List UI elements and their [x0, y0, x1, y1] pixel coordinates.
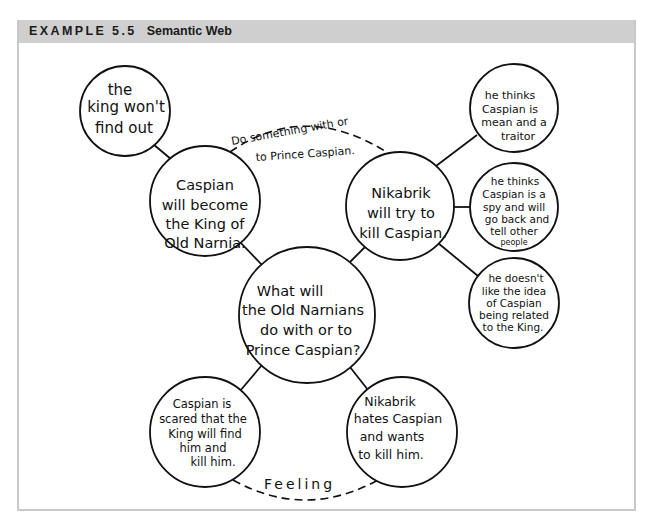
node-text-line: the King of: [166, 216, 246, 232]
node-text-line: will try to: [367, 205, 435, 221]
node-text-line: will become: [162, 197, 249, 213]
node-text-line: mean and a: [481, 116, 547, 129]
connector-line: [438, 243, 478, 276]
node-text-line: and wants: [360, 429, 425, 444]
connector-line: [153, 144, 172, 160]
link-label-top-line1: Do something with or: [230, 114, 349, 147]
node-text-line: Caspian is: [173, 397, 232, 411]
node-text-line: he thinks: [485, 89, 536, 102]
node-text-line: Caspian is a: [482, 188, 545, 200]
node-text-line: he thinks: [491, 175, 539, 187]
link-label-bottom: Feeling: [264, 476, 335, 492]
connector-line: [350, 246, 366, 262]
node-text-line: kill him.: [190, 455, 235, 469]
node-text-line: hates Caspian: [354, 411, 443, 426]
node-text-line: like the idea: [482, 285, 546, 297]
node-text-line: do with or to: [260, 322, 352, 338]
node-text-line: Prince Caspian?: [246, 342, 361, 358]
node-text-line: being related: [479, 309, 549, 321]
connector-line: [240, 365, 262, 391]
node-text-line: scared that the: [159, 412, 247, 426]
node-text-line: to kill him.: [358, 447, 424, 462]
semantic-web-diagram: the king won't find out Caspian will bec…: [0, 0, 660, 522]
node-text-line: King will find: [168, 427, 241, 441]
node-text-line: find out: [95, 119, 153, 137]
node-text-line: spy and will: [483, 201, 545, 213]
node-text-line: the Old Narnians: [242, 302, 364, 318]
node-related-king: he doesn't like the idea of Caspian bein…: [479, 272, 549, 333]
node-text-line: What will: [257, 283, 324, 299]
node-text-line: he doesn't: [488, 272, 543, 284]
node-text-line: people: [500, 238, 527, 247]
node-text-line: him and: [180, 441, 227, 455]
node-text-line: kill Caspian.: [359, 225, 447, 241]
node-text-line: to the King.: [483, 321, 544, 333]
node-text-line: traitor: [501, 130, 536, 143]
node-text-line: the: [108, 81, 133, 99]
node-text-line: tell other: [490, 225, 538, 237]
node-text-line: Nikabrik: [364, 394, 416, 409]
node-text-line: go back and: [485, 213, 549, 225]
node-text-line: king won't: [87, 98, 165, 116]
connector-line: [350, 367, 368, 390]
link-label-top-line2: to Prince Caspian.: [255, 144, 355, 164]
node-text-line: Caspian is: [482, 103, 538, 116]
connector-line: [436, 135, 477, 166]
node-text-line: Nikabrik: [371, 185, 431, 201]
node-text-line: Caspian: [176, 177, 234, 193]
node-text-line: Old Narnia.: [164, 235, 245, 251]
node-text-line: of Caspian: [486, 297, 541, 309]
